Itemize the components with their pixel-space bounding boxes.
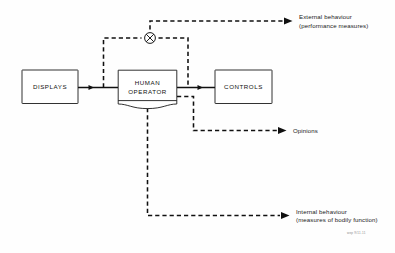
path-junction-to-external-behaviour bbox=[150, 21, 283, 30]
arrowhead-internal-behaviour bbox=[281, 212, 290, 219]
external-behaviour-line2: (performance measures) bbox=[299, 22, 368, 29]
label-internal-behaviour: Internal behaviour (measures of bodily f… bbox=[296, 208, 378, 223]
external-behaviour-line1: External behaviour bbox=[299, 13, 352, 20]
summing-junction[interactable] bbox=[145, 33, 156, 44]
displays-label: DISPLAYS bbox=[33, 83, 67, 90]
human-operator-label-line2: OPERATOR bbox=[128, 88, 167, 95]
arrowhead-opinions bbox=[278, 127, 287, 134]
figure-code: wep 9/11.11 bbox=[347, 231, 366, 235]
internal-behaviour-line2: (measures of bodily function) bbox=[296, 216, 378, 223]
label-opinions: Opinions bbox=[293, 127, 318, 134]
arrowhead-external-behaviour bbox=[284, 18, 293, 25]
arrowhead-displays-to-operator bbox=[89, 85, 95, 90]
label-external-behaviour: External behaviour (performance measures… bbox=[299, 13, 368, 28]
block-diagram-svg: DISPLAYS HUMAN OPERATOR CONTROLS Externa… bbox=[0, 0, 395, 253]
path-operator-to-internal-behaviour bbox=[148, 108, 281, 216]
human-operator-label-line1: HUMAN bbox=[135, 79, 160, 86]
opinions-line1: Opinions bbox=[293, 127, 318, 134]
dashed-internal-behaviour-path bbox=[148, 108, 290, 219]
dashed-external-behaviour-path bbox=[150, 18, 293, 30]
controls-label: CONTROLS bbox=[224, 83, 263, 90]
block-displays[interactable]: DISPLAYS bbox=[22, 70, 78, 104]
diagram-canvas: DISPLAYS HUMAN OPERATOR CONTROLS Externa… bbox=[0, 0, 395, 253]
arrowhead-operator-to-controls bbox=[198, 85, 204, 90]
block-controls[interactable]: CONTROLS bbox=[215, 70, 272, 104]
internal-behaviour-line1: Internal behaviour bbox=[296, 208, 347, 215]
block-human-operator[interactable]: HUMAN OPERATOR bbox=[118, 70, 177, 108]
